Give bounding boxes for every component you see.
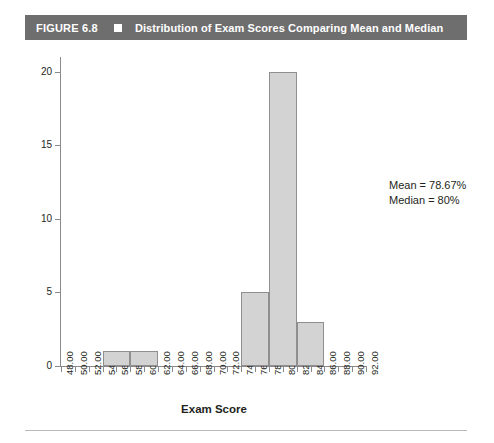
y-tick-label: 0 (46, 361, 52, 371)
x-tick-mark (366, 367, 367, 372)
x-tick-label: 52.00 (93, 351, 103, 375)
x-tick-mark (172, 367, 173, 372)
y-tick-mark (55, 292, 60, 293)
histogram-chart: 05101520 48.0050.0052.0054.0056.0058.006… (0, 0, 494, 443)
y-axis-line (60, 57, 61, 367)
median-annotation: Median = 80% (389, 193, 466, 208)
y-tick-label-box: 0 (22, 361, 52, 371)
x-tick-mark (241, 367, 242, 372)
x-axis-title: Exam Score (0, 403, 428, 415)
x-tick-mark (75, 367, 76, 372)
y-tick-label: 5 (46, 287, 52, 297)
mean-annotation: Mean = 78.67% (389, 178, 466, 193)
x-tick-label: 70.00 (218, 351, 228, 375)
x-tick-mark (338, 367, 339, 372)
y-tick-label-box: 10 (22, 214, 52, 224)
histogram-bar (130, 351, 158, 366)
x-tick-label: 62.00 (162, 351, 172, 375)
x-tick-mark (130, 367, 131, 372)
x-tick-mark (255, 367, 256, 372)
x-tick-mark (116, 367, 117, 372)
x-tick-mark (283, 367, 284, 372)
x-tick-mark (324, 367, 325, 372)
x-tick-label: 88.00 (342, 351, 352, 375)
histogram-bar (103, 351, 131, 366)
y-tick-label-box: 5 (22, 287, 52, 297)
y-tick-mark (55, 72, 60, 73)
x-tick-mark (297, 367, 298, 372)
histogram-bar (297, 322, 325, 366)
x-tick-label: 90.00 (356, 351, 366, 375)
x-tick-label: 86.00 (328, 351, 338, 375)
x-tick-mark (61, 367, 62, 372)
x-tick-mark (227, 367, 228, 372)
y-tick-label-box: 15 (22, 140, 52, 150)
x-tick-label: 92.00 (370, 351, 380, 375)
y-tick-label: 10 (41, 214, 52, 224)
x-tick-mark (200, 367, 201, 372)
x-tick-label: 66.00 (190, 351, 200, 375)
y-tick-mark (55, 219, 60, 220)
x-tick-mark (269, 367, 270, 372)
y-tick-label: 15 (41, 140, 52, 150)
x-tick-mark (214, 367, 215, 372)
x-tick-mark (144, 367, 145, 372)
statistics-annotation: Mean = 78.67% Median = 80% (389, 178, 466, 208)
y-tick-mark (55, 366, 60, 367)
x-tick-mark (311, 367, 312, 372)
y-tick-label: 20 (41, 67, 52, 77)
figure-bottom-rule (25, 430, 467, 431)
x-tick-mark (103, 367, 104, 372)
y-tick-mark (55, 145, 60, 146)
x-tick-label: 48.00 (65, 351, 75, 375)
x-tick-label: 50.00 (79, 351, 89, 375)
x-tick-mark (89, 367, 90, 372)
histogram-bar (241, 292, 269, 366)
x-tick-label: 68.00 (204, 351, 214, 375)
x-tick-mark (352, 367, 353, 372)
x-tick-label: 64.00 (176, 351, 186, 375)
y-tick-label-box: 20 (22, 67, 52, 77)
x-tick-label: 72.00 (231, 351, 241, 375)
x-tick-mark (186, 367, 187, 372)
histogram-bar (269, 72, 297, 366)
x-tick-mark (158, 367, 159, 372)
